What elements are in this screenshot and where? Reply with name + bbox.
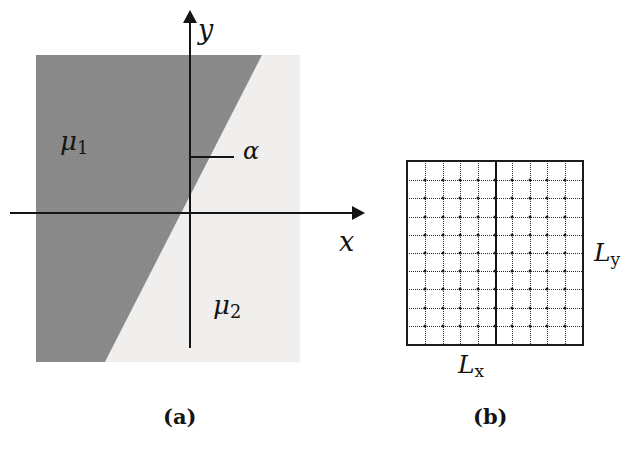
lattice-node-dot [477,325,480,328]
lattice-node-dot [477,179,480,182]
lattice-node-dot [477,197,480,200]
lattice-node-dot [459,179,462,182]
interface-field [36,55,300,362]
lattice-node-dot [424,252,427,255]
lattice-node-dot [442,234,445,237]
lattice-node-dot [424,288,427,291]
lattice-node-dot [459,197,462,200]
lattice-box [406,160,584,346]
lattice-node-dot [546,216,549,219]
lattice-height-label: Ly [594,240,620,268]
x-axis-line [10,212,358,214]
lattice-node-dot [546,288,549,291]
lattice-node-dot [442,270,445,273]
lattice-node-dot [529,252,532,255]
x-axis-arrowhead-icon [352,206,365,220]
lattice-node-dot [546,307,549,310]
lattice-node-dot [529,216,532,219]
lattice-node-dot [564,307,567,310]
panel-b-caption: (b) [473,404,508,429]
lattice-node-dot [442,325,445,328]
lattice-node-dot [424,234,427,237]
lattice-node-dot [511,288,514,291]
lattice-node-dot [424,270,427,273]
lattice-node-dot [564,325,567,328]
lattice-node-dot [546,197,549,200]
region-mu2-label-subscript: 2 [230,302,241,322]
lattice-node-dot [564,234,567,237]
lattice-node-dot [477,307,480,310]
region-mu2-label-symbol: μ [213,290,230,320]
region-mu2-label: μ2 [213,292,241,322]
lattice-node-dot [529,197,532,200]
lattice-node-dot [511,197,514,200]
lattice-node-dot [529,288,532,291]
panel-b: Ly Lx [380,0,635,395]
lattice-node-dot [494,288,497,291]
lattice-node-dot [511,179,514,182]
lattice-node-dot [477,288,480,291]
lattice-node-dot [459,307,462,310]
lattice-node-dot [424,325,427,328]
lattice-node-dot [459,252,462,255]
lattice-node-dot [564,252,567,255]
lattice-height-label-symbol: L [594,238,611,267]
lattice-node-dot [494,270,497,273]
lattice-node-dot [529,307,532,310]
lattice-node-dot [459,216,462,219]
lattice-node-dot [511,270,514,273]
lattice-node-dot [459,325,462,328]
x-axis-label: x [339,228,354,255]
lattice-nodes [408,162,582,344]
angle-alpha-label: α [243,139,259,163]
lattice-node-dot [494,216,497,219]
lattice-node-dot [494,307,497,310]
lattice-node-dot [546,270,549,273]
lattice-node-dot [546,179,549,182]
lattice-height-label-subscript: y [611,249,621,269]
lattice-node-dot [564,197,567,200]
lattice-node-dot [546,252,549,255]
lattice-node-dot [529,179,532,182]
lattice-width-label: Lx [458,352,484,380]
lattice-node-dot [459,288,462,291]
lattice-node-dot [511,234,514,237]
lattice-node-dot [511,252,514,255]
lattice-node-dot [442,197,445,200]
lattice-node-dot [442,307,445,310]
lattice-width-label-symbol: L [458,350,475,379]
lattice-node-dot [424,216,427,219]
lattice-node-dot [442,216,445,219]
lattice-node-dot [511,325,514,328]
lattice-node-dot [477,270,480,273]
lattice-node-dot [424,179,427,182]
lattice-node-dot [564,288,567,291]
lattice-node-dot [529,234,532,237]
lattice-node-dot [529,270,532,273]
lattice-node-dot [511,216,514,219]
lattice-node-dot [424,307,427,310]
lattice-node-dot [511,307,514,310]
lattice-node-dot [477,216,480,219]
lattice-node-dot [424,197,427,200]
angle-reference-segment [190,156,234,158]
lattice-node-dot [564,179,567,182]
panel-a-caption: (a) [163,404,196,429]
lattice-node-dot [477,252,480,255]
lattice-node-dot [442,179,445,182]
lattice-node-dot [442,288,445,291]
lattice-width-label-subscript: x [475,361,485,381]
lattice-node-dot [459,270,462,273]
lattice-node-dot [494,197,497,200]
region-mu1-label-subscript: 1 [77,138,88,158]
lattice-node-dot [442,252,445,255]
panel-a: y x μ1 μ2 α [0,0,380,395]
lattice-node-dot [546,325,549,328]
lattice-node-dot [529,325,532,328]
lattice-node-dot [564,270,567,273]
lattice-node-dot [477,234,480,237]
y-axis-line [189,18,191,348]
y-axis-arrowhead-icon [183,10,197,23]
region-mu1-label: μ1 [60,128,88,158]
lattice-node-dot [494,325,497,328]
